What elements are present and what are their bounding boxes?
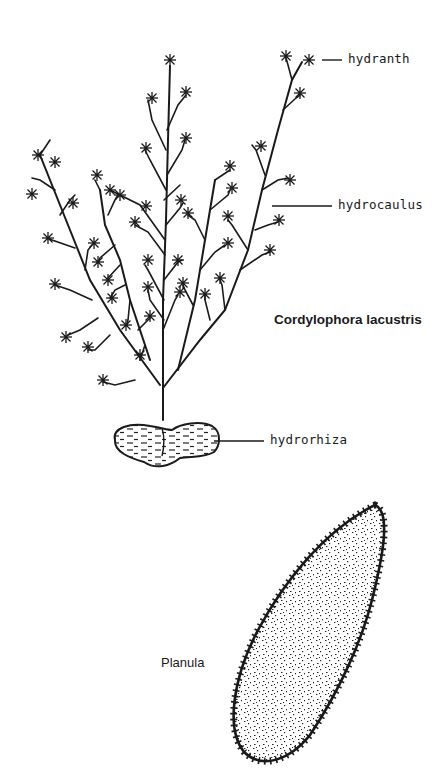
figure-title: Cordylophora lacustris [274,312,422,327]
hydranth-label: hydranth [348,51,410,66]
cordylophora-figure: hydranth hydrocaulus Cordylophora lacust… [0,0,442,783]
planula-drawing [234,505,385,761]
planula-label: Planula [161,655,204,670]
hydrocaulus-label: hydrocaulus [338,197,423,212]
hydranth-polyps [26,50,315,386]
hydrorhiza-drawing [115,423,219,466]
hydrocaulus-drawing [32,58,302,420]
hydrorhiza-label: hydrorhiza [270,432,347,447]
